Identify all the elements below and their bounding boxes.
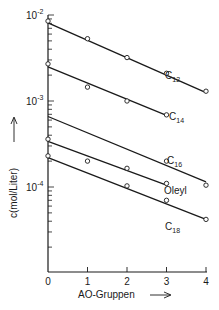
x-tick-label: 0	[45, 276, 51, 287]
series-c12	[46, 19, 208, 94]
x-tick-label: 3	[164, 276, 170, 287]
series-label-oleyl: Oleyl	[164, 185, 187, 196]
y-tick-label: 10-3	[26, 94, 43, 107]
data-point	[85, 85, 89, 89]
series-label-c14: C14	[169, 111, 184, 124]
x-tick-label: 4	[203, 276, 209, 287]
x-tick-label: 1	[85, 276, 91, 287]
x-axis-label: AO-Gruppen	[78, 289, 135, 300]
data-point	[46, 154, 50, 158]
y-tick-label: 10-2	[26, 8, 43, 21]
data-point	[125, 55, 129, 59]
data-point	[204, 183, 208, 187]
series-label-c12: C12	[165, 70, 180, 83]
fit-line	[48, 141, 167, 185]
labels: 10-210-310-401234AO-Gruppenc(mol/Liter)C…	[8, 8, 209, 300]
data-point	[164, 198, 168, 202]
data-point	[85, 37, 89, 41]
data-point	[46, 137, 50, 141]
data-point	[85, 159, 89, 163]
data-point	[125, 184, 129, 188]
data-point	[204, 217, 208, 221]
data-point	[46, 19, 50, 23]
data-point	[125, 99, 129, 103]
axes	[48, 15, 207, 272]
y-axis-label: c(mol/Liter)	[8, 168, 19, 218]
data-point	[204, 89, 208, 93]
series-label-c18: C18	[165, 221, 180, 234]
chart: 10-210-310-401234AO-Gruppenc(mol/Liter)C…	[0, 0, 219, 310]
series-c14	[46, 62, 169, 117]
series-c16	[48, 117, 208, 188]
data-point	[46, 62, 50, 66]
fit-line	[48, 117, 206, 182]
series-oleyl	[46, 137, 169, 186]
fit-line	[48, 67, 167, 116]
y-tick-label: 10-4	[26, 180, 43, 193]
x-tick-label: 2	[124, 276, 130, 287]
data-point	[125, 166, 129, 170]
